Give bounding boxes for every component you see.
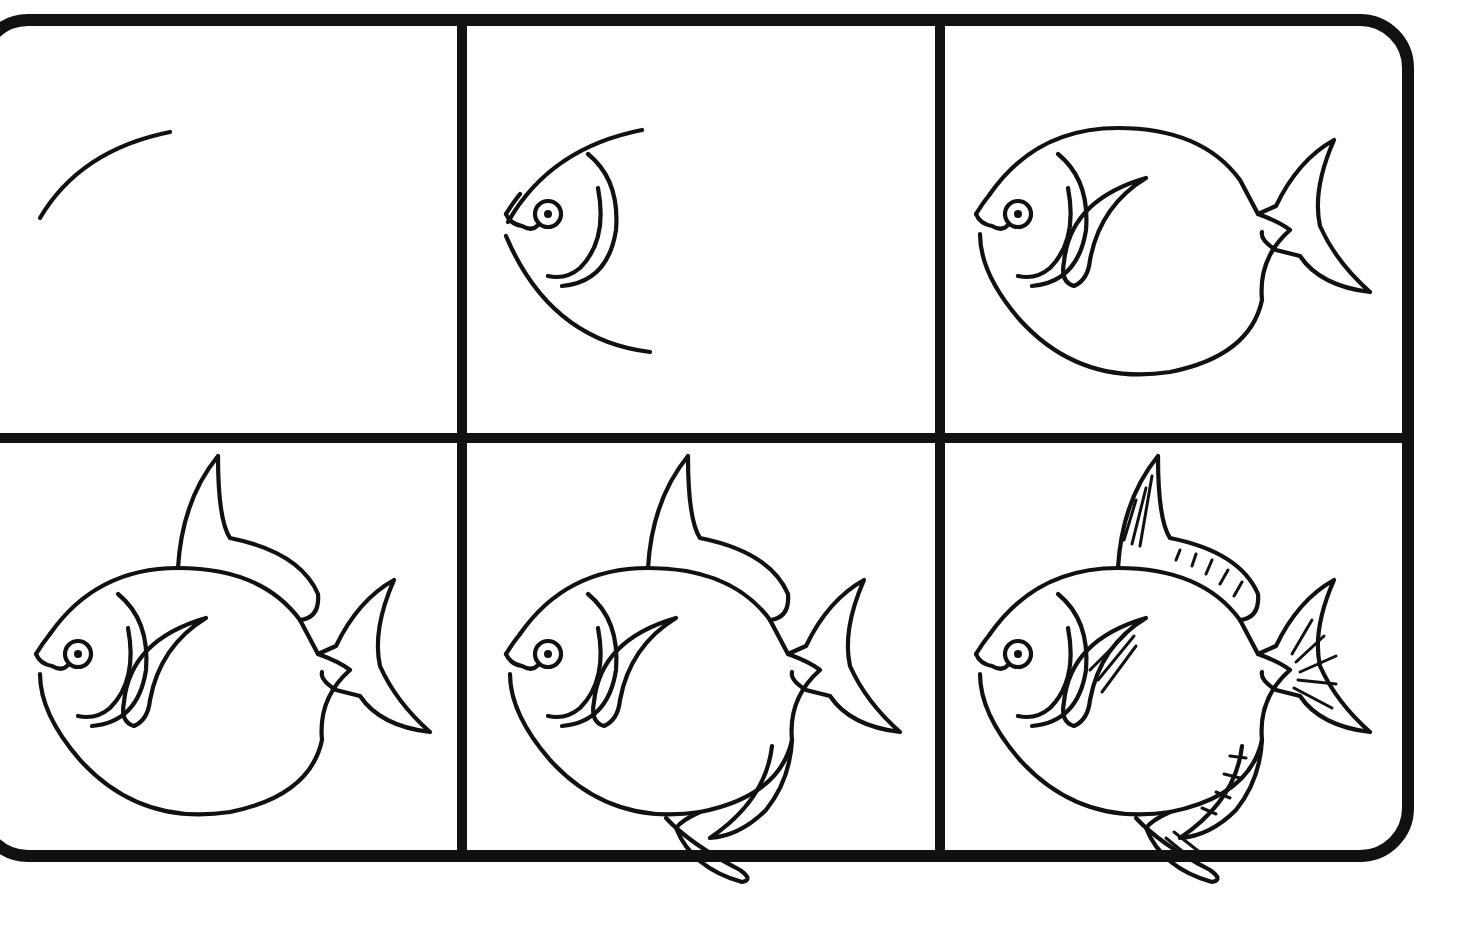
fish-face — [506, 594, 616, 726]
tail-fin — [1258, 140, 1370, 292]
tail-fin — [318, 580, 430, 732]
panel-step-1 — [40, 132, 170, 218]
fish-body — [510, 568, 820, 814]
fish-body — [980, 128, 1290, 374]
dorsal-fin — [648, 456, 788, 620]
panel-step-3 — [976, 128, 1370, 374]
pectoral-fin — [1063, 178, 1146, 286]
dorsal-fin — [1118, 456, 1258, 620]
pectoral-fin — [593, 618, 676, 726]
tail-fin — [788, 580, 900, 732]
fin-ray-details — [1090, 476, 1336, 864]
fish-body — [980, 568, 1290, 814]
fish-face — [36, 594, 146, 726]
dorsal-fin — [178, 456, 318, 620]
panel-step-6 — [976, 456, 1370, 882]
panel-step-2 — [506, 130, 650, 352]
tail-fin — [1258, 580, 1370, 732]
panel-step-4 — [36, 456, 430, 814]
fish-face — [976, 154, 1086, 286]
fish-face — [976, 594, 1086, 726]
lower-jaw-curve — [506, 236, 650, 352]
anal-fin — [1180, 740, 1262, 838]
panel-step-5 — [506, 456, 900, 882]
head-arc-stroke — [40, 132, 170, 218]
pectoral-fin — [123, 618, 206, 726]
pelvic-fin — [666, 812, 748, 882]
anal-fin — [710, 740, 792, 838]
tutorial-board — [0, 0, 1484, 925]
fish-body — [40, 568, 350, 814]
head-arc-stroke — [508, 130, 642, 222]
